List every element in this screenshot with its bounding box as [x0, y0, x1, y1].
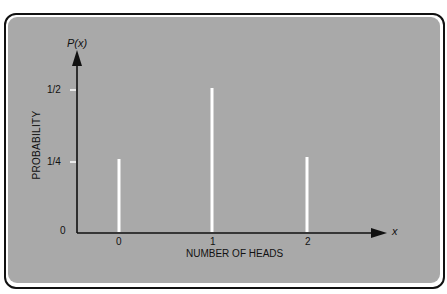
x-tick-label-2: 2	[305, 236, 311, 247]
x-axis-title: NUMBER OF HEADS	[186, 248, 283, 259]
y-tick-label-quarter: 1/4	[47, 156, 61, 167]
y-axis-arrow-icon	[72, 50, 82, 66]
y-axis-symbol: P(x)	[67, 37, 87, 49]
y-axis-title: PROBABILITY	[31, 111, 42, 180]
x-tick-label-1: 1	[210, 236, 216, 247]
x-axis-arrow-icon	[371, 228, 387, 238]
x-tick-label-0: 0	[116, 236, 122, 247]
y-tick-label-zero: 0	[60, 225, 66, 236]
y-tick-label-half: 1/2	[47, 84, 61, 95]
x-axis-symbol: x	[392, 225, 398, 237]
